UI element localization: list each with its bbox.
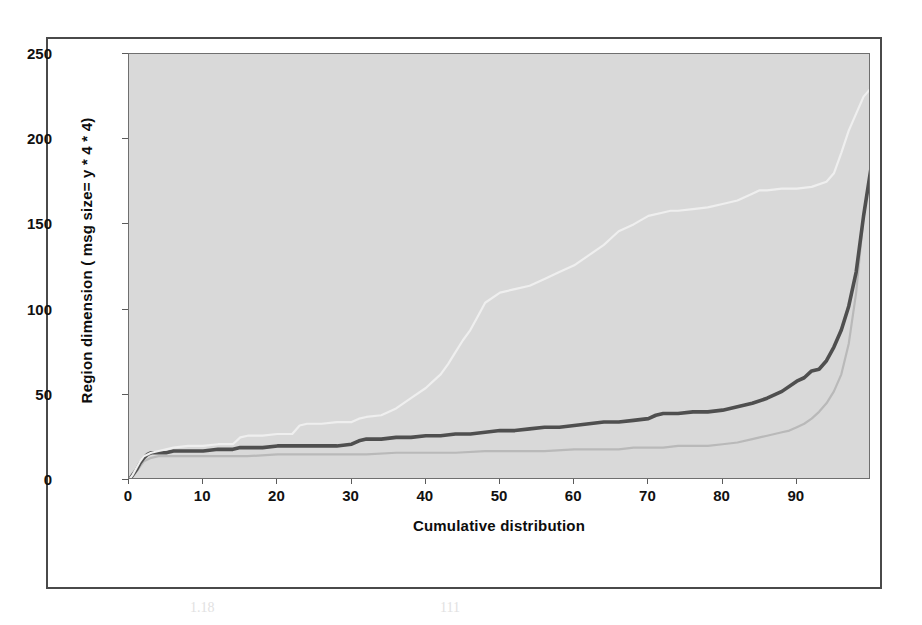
y-axis-title: Region dimension ( msg size= y * 4 * 4) — [78, 71, 95, 451]
background-ghost-text: 111 — [440, 600, 460, 616]
x-tick-mark — [722, 479, 723, 484]
x-tick-mark — [425, 479, 426, 484]
x-tick-label: 10 — [194, 487, 211, 504]
figure-frame: Word Powerpoint Treeview 050100150200250… — [46, 37, 882, 589]
y-tick-label: 150 — [0, 215, 52, 232]
x-tick-label: 40 — [416, 487, 433, 504]
x-tick-label: 70 — [639, 487, 656, 504]
x-tick-label: 50 — [491, 487, 508, 504]
x-tick-label: 0 — [124, 487, 132, 504]
series-curves — [129, 54, 870, 479]
y-tick-label: 100 — [0, 300, 52, 317]
series-line-powerpoint — [129, 168, 870, 479]
x-tick-mark — [573, 479, 574, 484]
x-tick-mark — [796, 479, 797, 484]
y-tick-label: 50 — [0, 385, 52, 402]
x-tick-label: 20 — [268, 487, 285, 504]
x-tick-mark — [647, 479, 648, 484]
y-tick-label: 250 — [0, 45, 52, 62]
x-tick-label: 60 — [565, 487, 582, 504]
x-tick-label: 80 — [713, 487, 730, 504]
y-tick-label: 0 — [0, 471, 52, 488]
x-tick-mark — [276, 479, 277, 484]
plot-wrapper: 050100150200250 0102030405060708090 Regi… — [48, 39, 884, 591]
y-tick-label: 200 — [0, 130, 52, 147]
x-tick-mark — [499, 479, 500, 484]
x-tick-mark — [351, 479, 352, 484]
x-tick-mark — [202, 479, 203, 484]
x-tick-mark — [128, 479, 129, 484]
x-axis-title: Cumulative distribution — [128, 517, 870, 534]
plot-area — [128, 53, 870, 479]
x-tick-label: 90 — [787, 487, 804, 504]
background-ghost-text: 1.18 — [190, 600, 215, 616]
x-tick-label: 30 — [342, 487, 359, 504]
series-line-treeview — [129, 88, 870, 479]
